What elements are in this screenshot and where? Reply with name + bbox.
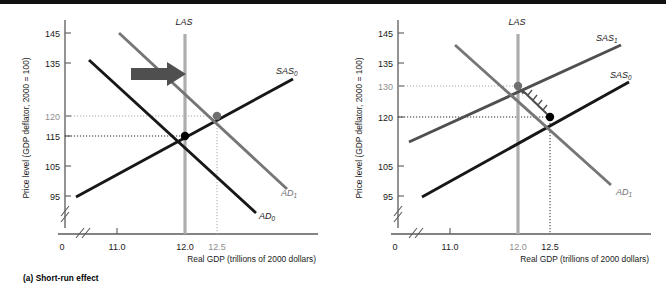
curve-sas0 <box>422 82 629 197</box>
curve-label-sas0: SAS0 <box>610 70 632 81</box>
curve-sas1 <box>409 45 621 142</box>
x-tick-label-12-0: 12.0 <box>176 242 194 252</box>
x-axis-break-marker <box>76 228 90 238</box>
curve-label-sas0: SAS0 <box>276 66 298 77</box>
x-axis-title: Real GDP (trillions of 2000 dollars) <box>187 254 316 264</box>
y-tick-label-130: 130 <box>378 82 393 92</box>
y-tick-label-145: 145 <box>378 29 393 39</box>
x-tick-label-11-0: 11.0 <box>109 242 126 252</box>
curve-ad1 <box>455 45 611 185</box>
y-tick-label-95: 95 <box>383 192 393 202</box>
y-tick-label-105: 105 <box>45 162 60 172</box>
curve-label-ad0: AD0 <box>258 211 276 222</box>
shift-arrow-icon <box>131 62 186 86</box>
panel-a-caption: (a) Short-run effect <box>23 274 99 283</box>
x-tick-label-11-0: 11.0 <box>442 242 459 252</box>
x-axis-ticks <box>117 228 185 234</box>
curve-label-ad1: AD1 <box>615 187 633 198</box>
chart-panel-long-run: 145 135 130 120 105 95 0 11.0 12.0 12.5 … <box>333 0 666 296</box>
equilibrium-dot-initial <box>181 132 189 140</box>
curve-label-ad1: AD1 <box>280 188 298 199</box>
y-axis-title: Price level (GDP deflator, 2000 = 100) <box>354 57 364 198</box>
y-tick-label-135: 135 <box>45 59 60 69</box>
x-axis-origin-label: 0 <box>392 242 397 252</box>
x-tick-label-12-5: 12.5 <box>541 242 559 252</box>
curve-label-sas1: SAS1 <box>596 33 618 44</box>
y-tick-label-95: 95 <box>50 192 60 202</box>
panel-a-plot: 145 135 120 115 105 95 0 11.0 12.0 12.5 … <box>0 0 333 270</box>
y-axis-title: Price level (GDP deflator, 2000 = 100) <box>21 57 31 198</box>
x-axis-origin-label: 0 <box>59 242 64 252</box>
y-tick-label-145: 145 <box>45 29 60 39</box>
y-tick-label-120: 120 <box>378 113 393 123</box>
curve-label-las: LAS <box>175 17 192 27</box>
chart-panel-short-run: 145 135 120 115 105 95 0 11.0 12.0 12.5 … <box>0 0 333 296</box>
x-axis-break-marker <box>409 228 423 238</box>
x-tick-label-12-5: 12.5 <box>208 242 226 252</box>
x-tick-label-12-0: 12.0 <box>509 242 527 252</box>
x-axis-title: Real GDP (trillions of 2000 dollars) <box>520 254 649 264</box>
equilibrium-dot-long-run <box>514 82 522 90</box>
x-axis-ticks <box>450 228 518 234</box>
curve-label-las: LAS <box>508 17 525 27</box>
y-tick-label-120: 120 <box>45 112 60 122</box>
equilibrium-dot-short-run <box>546 113 554 121</box>
adjustment-arrow-icon <box>519 87 547 114</box>
y-tick-label-115: 115 <box>46 132 60 142</box>
y-tick-label-135: 135 <box>378 59 393 69</box>
y-tick-label-105: 105 <box>378 162 393 172</box>
equilibrium-dot-short-run <box>213 112 221 120</box>
y-axis-ticks <box>65 33 71 196</box>
panel-b-plot: 145 135 130 120 105 95 0 11.0 12.0 12.5 … <box>333 0 666 270</box>
y-axis-ticks <box>398 33 404 196</box>
